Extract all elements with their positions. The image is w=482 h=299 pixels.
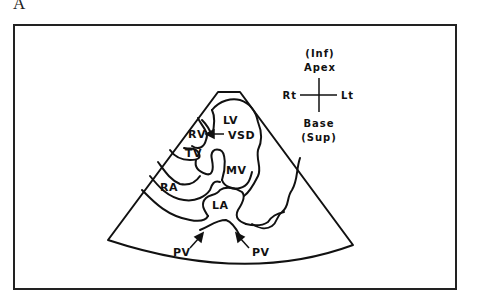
- orientation-sup: (Sup): [301, 132, 337, 143]
- orientation-base: Base: [303, 118, 334, 129]
- orientation-apex: Apex: [304, 62, 336, 73]
- label-rv: RV: [188, 128, 206, 141]
- orientation-lt: Lt: [341, 90, 354, 101]
- echo-sector-diagram: LV RV VSD TV MV RA LA PV PV (Inf) Apex R…: [0, 0, 482, 299]
- left-lateral-wall: [142, 190, 208, 221]
- label-pv-left: PV: [173, 246, 191, 259]
- label-vsd: VSD: [228, 129, 255, 142]
- pv-left-vessel: [200, 220, 240, 236]
- label-mv: MV: [226, 164, 246, 177]
- label-pv-right: PV: [252, 246, 270, 259]
- orientation-rt: Rt: [283, 90, 297, 101]
- label-tv: TV: [185, 147, 202, 160]
- label-la: LA: [212, 199, 229, 212]
- label-ra: RA: [160, 181, 178, 194]
- label-lv: LV: [223, 114, 238, 127]
- orientation-legend: (Inf) Apex Rt Lt Base (Sup): [283, 48, 355, 143]
- orientation-inf: (Inf): [305, 48, 334, 59]
